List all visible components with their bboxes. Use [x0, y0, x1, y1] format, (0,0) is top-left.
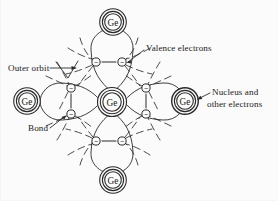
- outer-orbit-arc-rl-2: [150, 116, 171, 126]
- leader-outer-orbit-branch: [56, 61, 78, 78]
- leader-valence-electrons-arrowhead: [126, 60, 131, 64]
- covalent-bond-diagram: Ge Ge Ge Ge: [0, 0, 278, 201]
- outer-orbit-arc-br-1: [126, 144, 150, 155]
- electron-top-right[interactable]: −: [118, 58, 126, 66]
- outer-orbit-arc-ul-1: [68, 48, 92, 59]
- electron-charge-symbol: −: [120, 138, 124, 145]
- electron-left-lower[interactable]: −: [67, 110, 75, 118]
- electron-charge-symbol: −: [69, 111, 73, 118]
- outer-orbit-arc-ru-1: [148, 62, 160, 84]
- electron-bottom-right[interactable]: −: [118, 137, 126, 145]
- electron-charge-symbol: −: [144, 85, 148, 92]
- atom-left[interactable]: Ge: [14, 88, 41, 115]
- outer-orbit-arc-br-3: [125, 117, 140, 137]
- annotation-outer-orbit: Outer orbit: [8, 63, 50, 73]
- atom-right-label: Ge: [180, 97, 191, 107]
- electron-charge-symbol: −: [144, 111, 148, 118]
- outer-orbit-arc-bl-4: [66, 129, 92, 138]
- atom-center[interactable]: Ge: [98, 88, 127, 117]
- electron-charge-symbol: −: [120, 59, 124, 66]
- electron-charge-symbol: −: [94, 59, 98, 66]
- electron-top-left[interactable]: −: [92, 58, 100, 66]
- electron-right-upper[interactable]: −: [142, 84, 150, 92]
- atom-bottom-label: Ge: [108, 176, 119, 186]
- atoms: Ge Ge Ge Ge: [14, 9, 199, 194]
- outer-orbit-arc-bl-1: [68, 144, 92, 155]
- electron-bottom-left[interactable]: −: [92, 137, 100, 145]
- electron-right-lower[interactable]: −: [142, 110, 150, 118]
- atom-center-label: Ge: [107, 98, 118, 108]
- outer-orbit-arc-rl-1: [148, 118, 160, 140]
- leader-nucleus: [200, 93, 210, 98]
- atom-left-label: Ge: [22, 97, 33, 107]
- outer-orbit-arc-ru-4: [149, 92, 159, 112]
- atom-top-label: Ge: [108, 18, 119, 28]
- figure-canvas: Ge Ge Ge Ge: [0, 0, 278, 201]
- annotation-valence-electrons: Valence electrons: [146, 43, 212, 53]
- atom-right[interactable]: Ge: [172, 88, 199, 115]
- atom-top[interactable]: Ge: [100, 9, 127, 36]
- electron-charge-symbol: −: [94, 138, 98, 145]
- annotation-nucleus-line1: Nucleus and: [212, 87, 259, 97]
- leader-valence-electrons: [128, 50, 144, 62]
- outer-orbit-arc-bl-3: [78, 117, 93, 137]
- outer-orbit-arc-ul-4: [66, 65, 92, 74]
- electron-charge-symbol: −: [69, 85, 73, 92]
- outer-orbit-arc-lu-4: [58, 92, 68, 112]
- annotation-bond: Bond: [28, 123, 48, 133]
- outer-orbit-arc-lu-3: [75, 74, 93, 86]
- electron-left-upper[interactable]: −: [67, 84, 75, 92]
- atom-bottom[interactable]: Ge: [100, 167, 127, 194]
- annotation-nucleus-line2: other electrons: [207, 99, 263, 109]
- outer-orbit-arc-lu-2: [46, 76, 67, 86]
